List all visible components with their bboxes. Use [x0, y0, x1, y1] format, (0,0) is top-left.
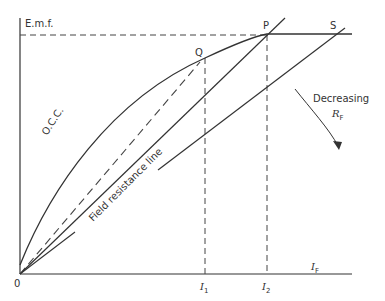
occ-label: O.C.C.: [39, 105, 65, 137]
occ-curve: [20, 34, 352, 265]
point-s-label: S: [330, 20, 336, 31]
decreasing-label: Decreasing: [313, 93, 369, 104]
origin-label: 0: [14, 278, 20, 289]
x-axis-label: IF: [310, 261, 319, 275]
y-axis-label: E.m.f.: [25, 18, 53, 29]
point-p-label: P: [263, 20, 269, 31]
point-q-label: Q: [195, 47, 203, 58]
field-resistance-label: Field resistance line: [87, 146, 165, 224]
occ-diagram: E.m.f. 0 P Q S IF I1 I2 O.C.C. Field res…: [0, 0, 385, 301]
i2-label: I2: [261, 281, 270, 295]
rf-label: RF: [331, 108, 344, 122]
arrow-head-icon: [333, 141, 342, 150]
field-resistance-line: [20, 18, 285, 274]
i1-label: I1: [199, 281, 208, 295]
lower-resistance-line: [20, 232, 75, 274]
critical-dashed-line: [20, 62, 200, 274]
